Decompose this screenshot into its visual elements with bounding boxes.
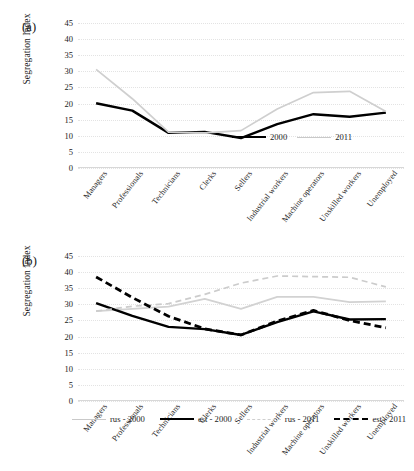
y-axis-tick: 25 — [65, 315, 74, 325]
y-axis-tick: 10 — [65, 364, 74, 374]
x-axis-labels-a: ManagersProfessionalsTechniciansClerksSe… — [78, 169, 404, 241]
y-axis-tick: 5 — [69, 147, 73, 157]
y-axis-tick: 20 — [65, 99, 74, 109]
y-axis-tick: 25 — [65, 82, 74, 92]
y-axis-tick: 0 — [69, 163, 73, 173]
y-axis-tick: 15 — [65, 115, 74, 125]
x-axis-tick-label: Unskilled workers — [318, 169, 363, 223]
y-axis-tick: 40 — [65, 34, 74, 44]
legend-entry: 2011 — [297, 132, 352, 142]
legend-swatch-icon — [160, 418, 194, 420]
y-axis-tick: 0 — [69, 396, 73, 406]
series-line — [96, 297, 386, 311]
legend-entry: rus - 2011 — [247, 414, 320, 424]
x-axis-tick-label: Unskilled workers — [318, 402, 363, 456]
plot-area-b: 051015202530354045 — [78, 256, 404, 401]
y-axis-tick: 30 — [65, 299, 74, 309]
legend-label: est - 2000 — [198, 414, 232, 424]
legend-label: 2000 — [270, 132, 287, 142]
legend-swatch-icon — [232, 136, 266, 138]
y-axis-tick: 15 — [65, 348, 74, 358]
x-axis-tick-label: Sellers — [233, 169, 254, 193]
y-axis-tick: 35 — [65, 283, 74, 293]
y-axis-tick: 40 — [65, 267, 74, 277]
legend-label: rus - 2000 — [110, 414, 145, 424]
legend-label: 2011 — [335, 132, 352, 142]
figure-panel-b: (b) Segregation Index 051015202530354045… — [0, 236, 414, 471]
y-axis-label-a: Segregation Index — [22, 0, 32, 104]
legend-swatch-icon — [247, 419, 281, 420]
series-canvas — [78, 23, 404, 168]
legend-swatch-icon — [297, 137, 331, 138]
y-axis-tick: 10 — [65, 131, 74, 141]
legend-entry: 2000 — [232, 132, 287, 142]
legend-entry: est - 2000 — [160, 414, 232, 424]
y-axis-tick: 5 — [69, 380, 73, 390]
y-axis-tick: 20 — [65, 332, 74, 342]
legend-label: rus - 2011 — [285, 414, 320, 424]
legend-label: est - 2011 — [372, 414, 406, 424]
x-axis-tick-label: Unemployed — [365, 169, 399, 209]
x-axis-tick-label: Technicians — [150, 169, 182, 206]
y-axis-tick: 30 — [65, 66, 74, 76]
y-axis-tick: 35 — [65, 50, 74, 60]
series-line — [96, 276, 386, 311]
legend-b: rus - 2000est - 2000rus - 2011est - 2011 — [72, 414, 406, 424]
series-line — [96, 69, 386, 132]
legend-entry: est - 2011 — [334, 414, 406, 424]
y-axis-tick: 45 — [65, 251, 74, 261]
legend-swatch-icon — [334, 418, 368, 420]
series-canvas — [78, 256, 404, 401]
x-axis-tick-label: Managers — [82, 169, 109, 201]
plot-area-a: 051015202530354045 — [78, 23, 404, 168]
legend-swatch-icon — [72, 419, 106, 420]
y-axis-tick: 45 — [65, 18, 74, 28]
x-axis-labels-b: ManagersProfessionalsTechniciansClerksSe… — [78, 402, 404, 471]
legend-entry: rus - 2000 — [72, 414, 145, 424]
x-axis-tick-label: Clerks — [197, 169, 218, 192]
figure-panel-a: (a) Segregation Index 051015202530354045… — [0, 0, 414, 235]
x-axis-tick-label: Professionals — [111, 169, 146, 210]
legend-a: 20002011 — [232, 132, 352, 142]
y-axis-label-b: Segregation Index — [22, 226, 32, 336]
